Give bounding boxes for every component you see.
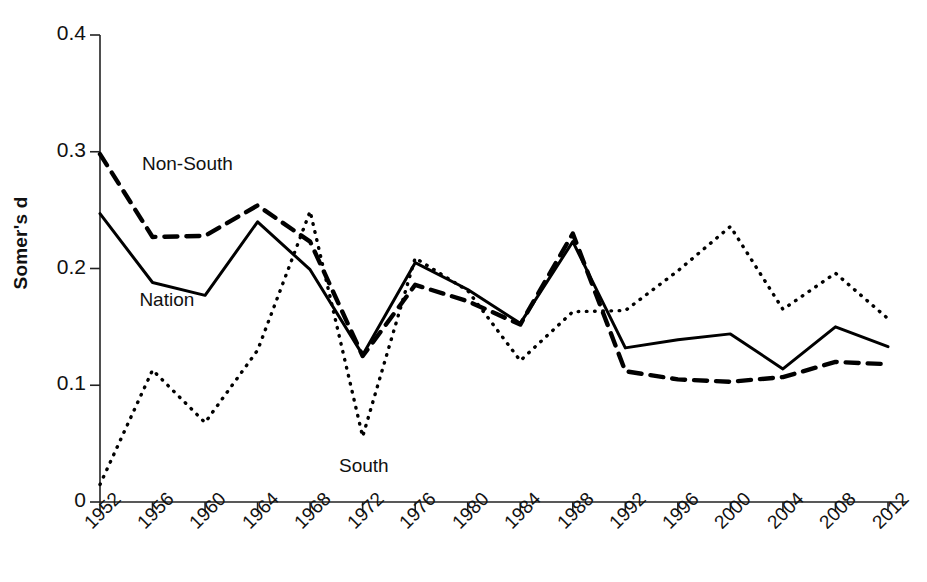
y-tick-label: 0.4: [57, 21, 86, 45]
series-label-non-south: Non-South: [142, 153, 233, 175]
series-line-non-south: [100, 154, 888, 382]
series-line-nation: [100, 214, 888, 369]
y-tick-label: 0: [74, 488, 86, 512]
y-tick-label: 0.3: [57, 138, 86, 162]
chart-axes: [90, 35, 907, 512]
y-tick-label: 0.1: [57, 371, 86, 395]
series-label-nation: Nation: [139, 289, 194, 311]
chart-series-layer: [100, 154, 888, 484]
series-line-south: [100, 211, 888, 484]
chart-figure: Somer's d 00.10.20.30.4 1952195619601964…: [0, 0, 927, 582]
y-tick-label: 0.2: [57, 255, 86, 279]
series-label-south: South: [339, 455, 389, 477]
y-axis-ticks: [90, 35, 100, 502]
